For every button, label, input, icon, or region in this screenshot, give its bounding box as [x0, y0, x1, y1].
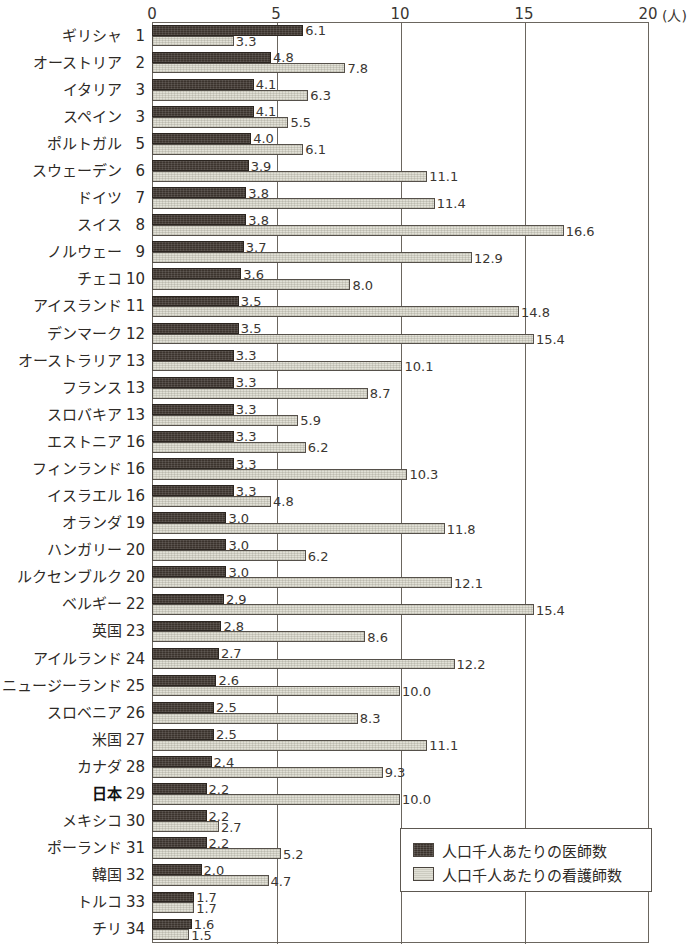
bar-doctors: [152, 214, 246, 225]
country-rank: 20: [125, 543, 145, 558]
bar-nurses: [152, 442, 306, 453]
country-name: スイス: [77, 216, 122, 234]
bar-value-label: 11.8: [445, 522, 476, 535]
chart-row: オランダ193.011.8: [0, 510, 683, 537]
bar-value-label: 6.2: [306, 549, 329, 562]
bar-value-label: 6.2: [306, 441, 329, 454]
chart-row: フィンランド163.310.3: [0, 455, 683, 482]
bar-nurses: [152, 198, 435, 209]
chart-row: アイスランド113.514.8: [0, 293, 683, 320]
bar-nurses: [152, 794, 400, 805]
legend-swatch-nurses-icon: [413, 867, 434, 881]
category-label: イタリア3: [63, 82, 145, 97]
bar-value-label: 15.4: [534, 332, 565, 345]
category-label: アイスランド11: [33, 299, 145, 314]
chart-row: オーストラリア133.310.1: [0, 347, 683, 374]
country-name: 米国: [92, 730, 122, 748]
bar-doctors: [152, 621, 221, 632]
chart-row: ルクセンブルク203.012.1: [0, 564, 683, 591]
bar-value-label: 12.2: [455, 657, 486, 670]
category-label: スロベニア26: [47, 705, 145, 720]
bar-doctors: [152, 296, 239, 307]
bar-doctors: [152, 25, 303, 36]
chart-row: 英国232.88.6: [0, 618, 683, 645]
category-label: ポーランド31: [47, 841, 145, 856]
bar-doctors: [152, 133, 251, 144]
bar-value-label: 11.1: [427, 170, 458, 183]
country-rank: 12: [125, 326, 145, 341]
country-name: スロベニア: [47, 703, 122, 721]
chart-row: フランス133.38.7: [0, 374, 683, 401]
country-rank: 26: [125, 705, 145, 720]
chart-row: スイス83.816.6: [0, 212, 683, 239]
category-label: 韓国32: [92, 868, 145, 883]
chart-row: ドイツ73.811.4: [0, 185, 683, 212]
bar-doctors: [152, 648, 219, 659]
country-name: デンマーク: [47, 324, 122, 342]
country-name: ニュージーランド: [2, 676, 122, 694]
bar-doctors: [152, 106, 254, 117]
bar-nurses: [152, 875, 269, 886]
country-rank: 13: [125, 353, 145, 368]
category-label: フィンランド16: [32, 461, 145, 476]
country-rank: 6: [125, 163, 145, 178]
bar-nurses: [152, 821, 219, 832]
country-rank: 1: [125, 28, 145, 43]
bar-doctors: [152, 241, 244, 252]
country-name: エストニア: [47, 432, 122, 450]
chart-row: ノルウェー93.712.9: [0, 239, 683, 266]
legend-label: 人口千人あたりの看護師数: [442, 864, 622, 885]
bar-value-label: 5.5: [288, 116, 311, 129]
bar-doctors: [152, 729, 214, 740]
country-rank: 30: [125, 814, 145, 829]
country-name: 日本: [92, 785, 122, 803]
category-label: イスラエル16: [47, 489, 145, 504]
chart-row: カナダ282.49.3: [0, 753, 683, 780]
bar-value-label: 5.2: [281, 847, 304, 860]
category-label: エストニア16: [47, 434, 145, 449]
country-rank: 29: [125, 787, 145, 802]
bar-nurses: [152, 469, 407, 480]
country-name: ルクセンブルク: [17, 568, 122, 586]
bar-nurses: [152, 144, 303, 155]
category-label: ハンガリー20: [47, 543, 145, 558]
chart-row: スペイン34.15.5: [0, 103, 683, 130]
country-rank: 31: [125, 841, 145, 856]
chart-row: ニュージーランド252.610.0: [0, 672, 683, 699]
bar-nurses: [152, 361, 402, 372]
bar-value-label: 6.1: [303, 24, 326, 37]
country-name: オーストラリア: [18, 351, 122, 369]
bar-value-label: 5.9: [298, 414, 321, 427]
country-rank: 20: [125, 570, 145, 585]
bar-doctors: [152, 458, 234, 469]
country-name: ギリシャ: [62, 26, 122, 44]
chart-row: デンマーク123.515.4: [0, 320, 683, 347]
country-name: フィンランド: [32, 459, 122, 477]
x-axis-tick-label: 0: [147, 5, 157, 23]
bar-value-label: 15.4: [534, 603, 565, 616]
bar-value-label: 1.7: [194, 901, 217, 914]
bar-value-label: 14.8: [519, 305, 550, 318]
bar-nurses: [152, 117, 288, 128]
bar-doctors: [152, 79, 254, 90]
bar-value-label: 16.6: [564, 224, 595, 237]
category-label: チリ34: [92, 922, 145, 937]
bar-nurses: [152, 334, 534, 345]
bar-nurses: [152, 388, 368, 399]
bar-value-label: 10.1: [402, 360, 433, 373]
category-label: スペイン3: [63, 109, 145, 124]
bar-value-label: 11.4: [435, 197, 466, 210]
bar-doctors: [152, 350, 234, 361]
legend-label: 人口千人あたりの医師数: [442, 840, 607, 861]
bar-doctors: [152, 539, 226, 550]
bar-nurses: [152, 496, 271, 507]
country-rank: 8: [125, 218, 145, 233]
country-name: ノルウェー: [47, 243, 122, 261]
bar-nurses: [152, 604, 534, 615]
bar-doctors: [152, 268, 241, 279]
bar-nurses: [152, 740, 427, 751]
bar-doctors: [152, 810, 207, 821]
x-axis-top: 05101520(人): [0, 5, 683, 23]
country-rank: 5: [125, 136, 145, 151]
country-name: スロバキア: [47, 405, 122, 423]
